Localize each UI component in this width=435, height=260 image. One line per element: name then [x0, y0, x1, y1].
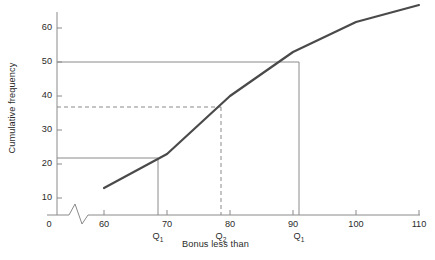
- quartile-label-q3-sub: 1: [301, 236, 305, 243]
- quartile-label-q2-text: Q: [216, 231, 223, 241]
- x-tick-label-0: 0: [36, 219, 62, 229]
- cumulative-frequency-chart: Cumulative frequency Bonus less than 60 …: [0, 0, 435, 260]
- y-tick-label-10: 10: [26, 192, 52, 202]
- x-tick-label-100: 100: [343, 219, 369, 229]
- y-tick-label-40: 40: [26, 90, 52, 100]
- quartile-label-q1-text: Q: [153, 231, 160, 241]
- quartile-label-q3: Q1: [286, 231, 312, 243]
- cumulative-frequency-curve: [104, 5, 419, 188]
- x-tick-label-70: 70: [154, 219, 180, 229]
- x-axis-ticks: [104, 210, 419, 215]
- quartile-label-q2-sub: 2: [223, 236, 227, 243]
- y-axis-title: Cumulative frequency: [2, 0, 22, 215]
- y-axis-ticks: [57, 28, 62, 198]
- quartile-label-q3-text: Q: [294, 231, 301, 241]
- quartile-label-q1-sub: 1: [160, 236, 164, 243]
- y-tick-label-20: 20: [26, 158, 52, 168]
- x-tick-label-80: 80: [217, 219, 243, 229]
- y-tick-label-60: 60: [26, 22, 52, 32]
- x-tick-label-90: 90: [280, 219, 306, 229]
- y-tick-label-50: 50: [26, 56, 52, 66]
- y-tick-label-30: 30: [26, 124, 52, 134]
- x-tick-label-60: 60: [91, 219, 117, 229]
- x-tick-label-110: 110: [406, 219, 432, 229]
- axis-break-zigzag-icon: [69, 204, 88, 224]
- y-axis-title-text: Cumulative frequency: [7, 62, 17, 153]
- quartile-label-q1: Q1: [145, 231, 171, 243]
- quartile-label-q2: Q2: [208, 231, 234, 243]
